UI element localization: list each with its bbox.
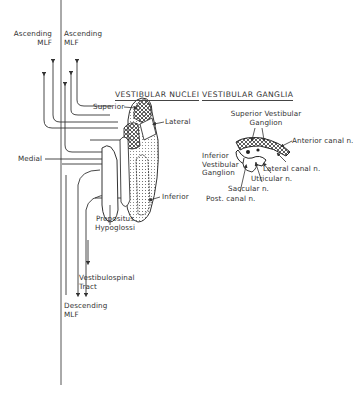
- ascending-mlf-right-label: Ascending MLF: [64, 30, 102, 47]
- anterior-canal-label: Anterior canal n.: [292, 137, 353, 146]
- ascending-right-line2: MLF: [64, 39, 102, 48]
- vestibular-nuclei-heading: VESTIBULAR NUCLEI: [115, 90, 199, 101]
- superior-nucleus-label: Superior: [93, 103, 124, 112]
- vestibular-ganglia-heading: VESTIBULAR GANGLIA: [202, 90, 293, 101]
- inferior-ganglion-line3: Ganglion: [202, 169, 239, 178]
- medial-label: Medial: [18, 155, 42, 164]
- descending-line2: MLF: [64, 311, 107, 320]
- saccular-label: Saccular n.: [228, 185, 269, 194]
- lateral-nucleus-label: Lateral: [165, 118, 191, 127]
- inferior-nucleus-label: Inferior: [162, 193, 189, 202]
- descending-mlf-label: Descending MLF: [64, 302, 107, 319]
- vestibular-nuclei-shape: [120, 98, 158, 222]
- lateral-canal-label: Lateral canal n.: [263, 165, 320, 174]
- prepositus-line2: Hypoglossi: [90, 224, 140, 233]
- utricular-label: Utricular n.: [251, 175, 292, 184]
- vestibulospinal-line2: Tract: [79, 283, 135, 292]
- superior-ganglion-label: Superior Vestibular Ganglion: [226, 110, 306, 127]
- ascending-mlf-left-label: Ascending MLF: [2, 30, 52, 47]
- posterior-canal-label: Post. canal n.: [206, 195, 255, 204]
- prepositus-label: Prepositus Hypoglossi: [90, 215, 140, 232]
- inferior-ganglion-label: Inferior Vestibular Ganglion: [202, 152, 239, 178]
- ascending-left-line2: MLF: [2, 39, 52, 48]
- vestibulospinal-label: Vestibulospinal Tract: [79, 274, 135, 291]
- superior-ganglion-line2: Ganglion: [226, 119, 306, 128]
